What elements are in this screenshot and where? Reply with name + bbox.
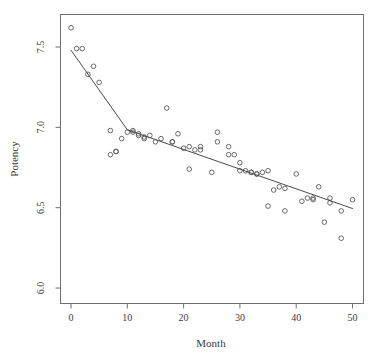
chart-figure: 6.06.57.07.5 01020304050 Month Potency [0,0,383,359]
y-tick-label: 6.0 [35,282,46,295]
y-axis-title: Potency [8,141,20,177]
x-tick-label: 0 [69,312,74,323]
potency-vs-month-scatter-chart: 6.06.57.07.5 01020304050 Month Potency [0,0,383,359]
x-tick-label: 30 [235,312,245,323]
x-axis-title: Month [196,337,226,349]
x-tick-label: 10 [122,312,132,323]
y-tick-label: 6.5 [35,201,46,214]
y-tick-label: 7.5 [35,41,46,54]
chart-background [0,0,383,359]
x-tick-label: 50 [348,312,358,323]
x-tick-label: 20 [179,312,189,323]
x-tick-label: 40 [291,312,301,323]
y-tick-label: 7.0 [35,121,46,134]
